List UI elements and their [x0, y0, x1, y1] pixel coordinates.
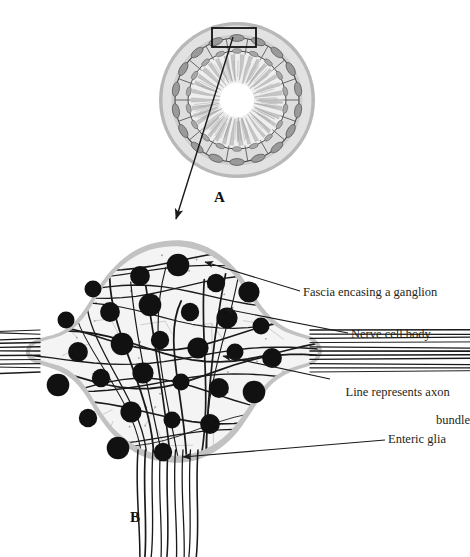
axon-bundle-left-exit: [0, 338, 40, 339]
submucosal-ganglion-ellipse: [232, 147, 241, 152]
axon-bundle-left-exit: [0, 333, 40, 334]
axon-bundle-bottom-exit: [189, 450, 191, 557]
axon-bundle-bottom-exit: [196, 450, 198, 557]
nerve-cell-body: [187, 337, 208, 358]
nerve-cell-body: [58, 312, 75, 329]
nerve-cell-body: [68, 342, 88, 362]
figure-enteric-ganglion: Fascia encasing a ganglion Nerve cell bo…: [0, 0, 470, 557]
nerve-cell-body: [167, 254, 190, 277]
panel-a-cross-section: [159, 22, 315, 219]
nerve-cell-body: [92, 369, 110, 387]
label-axon-bundle-line1: Line represents axon: [346, 385, 450, 399]
axon-bundle-bottom-exit: [137, 450, 140, 557]
nerve-cell-body: [253, 318, 270, 335]
panel-letter-b: B: [130, 509, 140, 526]
nerve-cell-body: [209, 378, 229, 398]
mucosa-villi: [191, 54, 283, 146]
axon-bundle-bottom-exit: [167, 450, 168, 557]
panel-letter-a: A: [214, 189, 225, 206]
nerve-cell-body: [120, 401, 141, 422]
axon-bundle-left-exit: [0, 372, 40, 374]
axon-bundle-left-exit: [0, 347, 40, 348]
nerve-cell-body: [207, 274, 225, 292]
label-nerve-cell-body: Nerve cell body: [351, 327, 431, 341]
axon-bundle-left-exit: [0, 343, 40, 344]
nerve-cell-body: [181, 303, 199, 321]
nerve-cell-body: [100, 302, 120, 322]
nerve-cell-body: [132, 362, 153, 383]
axon-bundle-bottom-exit: [151, 450, 153, 557]
axon-bundle-left-exit: [0, 367, 40, 368]
axon-bundle-left-exit: [0, 330, 40, 331]
nerve-cell-body: [130, 266, 150, 286]
nerve-cell-body: [243, 381, 266, 404]
nerve-cell-body: [85, 281, 102, 298]
nerve-cell-body: [107, 437, 130, 460]
axon-bundle-right-exit: [310, 347, 470, 348]
nerve-cell-body: [151, 331, 169, 349]
nerve-cell-body: [227, 344, 244, 361]
nerve-cell-body: [139, 294, 162, 317]
submucosal-ganglion-ellipse: [232, 49, 241, 54]
ganglion-ellipse: [230, 159, 244, 166]
axon-bundle-bottom-exit: [175, 450, 177, 557]
nerve-cell-body: [164, 412, 181, 429]
label-axon-bundle-line2: bundle: [333, 413, 470, 427]
label-fascia-encasing-ganglion: Fascia encasing a ganglion: [303, 285, 437, 299]
axon-bundle-bottom-exit: [160, 450, 162, 557]
axon-bundle-right-exit: [310, 364, 470, 365]
nerve-cell-body: [200, 414, 220, 434]
axon-bundle-right-exit: [310, 342, 470, 343]
nerve-cell-body: [238, 281, 259, 302]
axon-bundle-left-exit: [0, 364, 40, 365]
nerve-cell-body: [154, 443, 172, 461]
nerve-cell-body: [111, 333, 134, 356]
nerve-cell-body: [79, 409, 97, 427]
label-enteric-glia: Enteric glia: [388, 432, 446, 446]
figure-artwork: [0, 0, 470, 557]
nerve-cell-body: [47, 374, 70, 397]
axon-bundle-right-exit: [310, 358, 470, 359]
axon-bundle-bottom-exit: [182, 450, 184, 557]
nerve-cell-body: [173, 374, 190, 391]
axon-bundle-bottom-exit: [145, 450, 146, 557]
